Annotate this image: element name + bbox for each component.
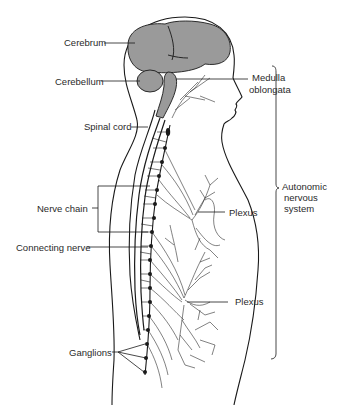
label-medulla-line2: oblongata: [249, 84, 291, 95]
ganglia: [143, 128, 170, 374]
label-ganglions: Ganglions: [69, 347, 112, 358]
label-spinal-cord: Spinal cord: [84, 121, 132, 132]
label-cerebellum: Cerebellum: [55, 76, 104, 87]
ganglions-leader: [112, 344, 146, 372]
brain: [128, 21, 230, 118]
cerebellum: [137, 70, 163, 92]
nerve-chain-bracket: [92, 186, 150, 232]
ans-brace: [271, 66, 279, 359]
cerebrum: [128, 21, 230, 73]
label-ans-line3: system: [284, 203, 314, 214]
label-cerebrum: Cerebrum: [64, 37, 106, 48]
label-plexus-upper: Plexus: [229, 207, 258, 218]
label-ans-line2: nervous: [284, 192, 318, 203]
label-nerve-chain: Nerve chain: [37, 203, 88, 214]
label-plexus-lower: Plexus: [235, 296, 264, 307]
label-ans-line1: Autonomic: [282, 181, 327, 192]
label-connecting-nerve: Connecting nerve: [16, 242, 90, 253]
nerve-chain: [145, 125, 170, 375]
label-medulla-line1: Medulla: [252, 72, 285, 83]
